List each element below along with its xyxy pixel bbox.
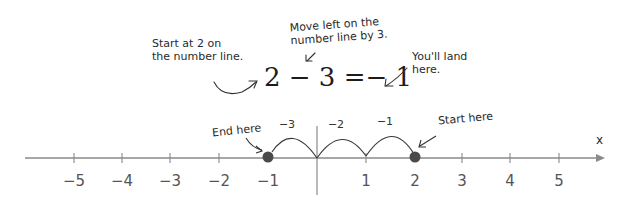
number-line-diagram [0, 0, 627, 202]
start-here-arrow-icon [419, 136, 436, 147]
jump-arc-1 [366, 136, 414, 156]
jump-arc-2 [317, 139, 366, 158]
jump-arc-3 [272, 138, 317, 158]
end-here-arrow-icon [246, 138, 262, 153]
tick-label: −3 [155, 172, 185, 190]
end-point-marker [263, 152, 274, 163]
tick-label: −4 [107, 172, 137, 190]
tick-label: −1 [253, 172, 283, 190]
annotation-arrows [214, 53, 407, 94]
jump-arcs [272, 136, 414, 158]
tick-label: −2 [204, 172, 234, 190]
axis-arrowhead-icon [596, 154, 605, 162]
tick-label: 2 [400, 172, 430, 190]
arrow-down-left-icon [307, 53, 315, 61]
tick-label: 4 [495, 172, 525, 190]
curved-arrow-icon [214, 82, 256, 94]
start-point-marker [410, 152, 421, 163]
tick-label: 1 [351, 172, 381, 190]
tick-label: 3 [447, 172, 477, 190]
tick-label: 5 [544, 172, 574, 190]
arrow-to-result-icon [386, 68, 407, 86]
tick-label: −5 [59, 172, 89, 190]
